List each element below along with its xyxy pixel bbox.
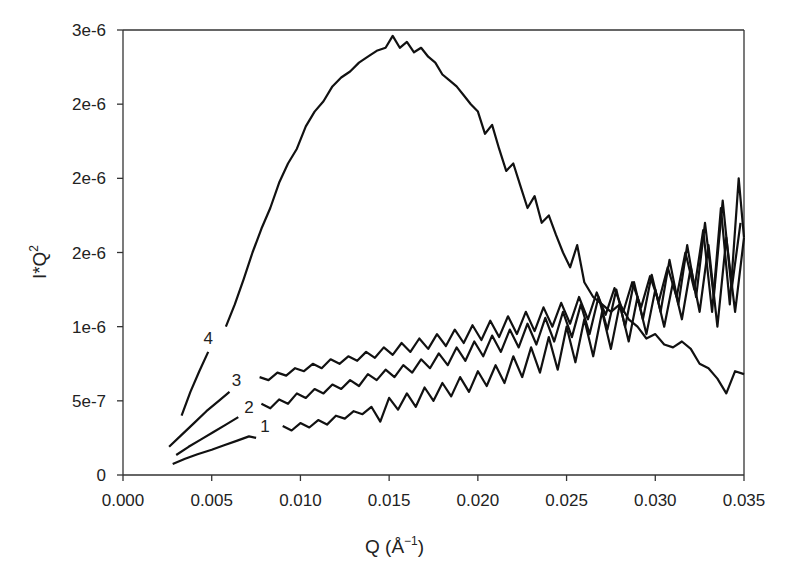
x-axis-title-main: Q (Å <box>365 536 404 557</box>
y-tick-label: 5e-7 <box>72 392 106 411</box>
y-tick-label: 3e-6 <box>72 21 106 40</box>
x-tick-label: 0.010 <box>279 491 322 510</box>
curve-label-3: 3 <box>232 371 241 390</box>
x-tick-label: 0.025 <box>545 491 588 510</box>
curve-2-segment-1 <box>176 417 238 455</box>
y-axis-title: I*Q2 <box>27 245 50 279</box>
curve-3-segment-1 <box>169 392 229 447</box>
x-tick-label: 0.035 <box>723 491 766 510</box>
x-tick-label: 0.030 <box>634 491 677 510</box>
x-axis-title: Q (Å−1) <box>365 534 424 557</box>
y-tick-label: 2e-6 <box>72 169 106 188</box>
axes: 0.0000.0050.0100.0150.0200.0250.0300.035… <box>72 21 765 510</box>
x-tick-label: 0.005 <box>190 491 233 510</box>
y-axis-title-sup: 2 <box>27 245 41 252</box>
y-tick-label: 1e-6 <box>72 318 106 337</box>
y-tick-label: 2e-6 <box>72 244 106 263</box>
curve-4-segment-2 <box>226 36 744 394</box>
curves <box>169 36 744 464</box>
labels: 1234 <box>203 329 269 436</box>
curve-4-segment-1 <box>182 352 209 416</box>
curve-label-4: 4 <box>203 329 212 348</box>
chart: 0.0000.0050.0100.0150.0200.0250.0300.035… <box>0 0 788 578</box>
x-tick-label: 0.015 <box>368 491 411 510</box>
x-tick-label: 0.000 <box>102 491 145 510</box>
x-tick-label: 0.020 <box>457 491 500 510</box>
y-tick-label: 0 <box>97 466 106 485</box>
x-axis-title-close: ) <box>418 536 424 557</box>
y-axis-title-main: I*Q <box>29 252 50 279</box>
y-tick-label: 2e-6 <box>72 95 106 114</box>
curve-1-segment-2 <box>283 238 744 431</box>
curve-label-2: 2 <box>244 398 253 417</box>
curve-label-1: 1 <box>260 417 269 436</box>
x-axis-title-sup: −1 <box>404 534 418 548</box>
